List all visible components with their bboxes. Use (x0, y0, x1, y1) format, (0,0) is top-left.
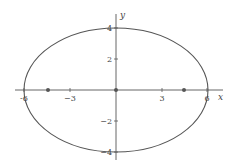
center-point (114, 88, 118, 92)
x-tick-label: 6 (204, 94, 209, 103)
y-tick-label: −4 (100, 148, 112, 157)
x-tick-label: 3 (159, 94, 164, 103)
chart-svg: -6 −3 3 6 4 2 −2 −4 x y (0, 0, 238, 168)
x-tick-label: -6 (20, 94, 28, 103)
right-focus-point (182, 88, 186, 92)
y-tick-label: −2 (100, 117, 112, 126)
x-axis-label: x (218, 92, 223, 102)
y-axis-label: y (119, 10, 126, 20)
x-tick-label: −3 (64, 94, 76, 103)
left-focus-point (46, 88, 50, 92)
ellipse-chart: -6 −3 3 6 4 2 −2 −4 x y (0, 0, 238, 168)
y-tick-label: 4 (107, 24, 112, 33)
y-tick-label: 2 (107, 55, 112, 64)
